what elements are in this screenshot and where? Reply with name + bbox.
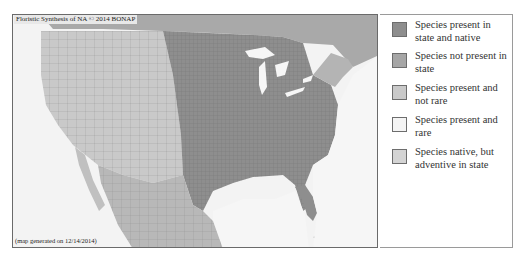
map-graphic bbox=[13, 15, 378, 248]
legend-item-not-present: Species not present in state bbox=[389, 49, 511, 85]
legend-swatch bbox=[392, 53, 407, 68]
legend-item-rare: Species present and rare bbox=[389, 113, 511, 149]
map-title: Floristic Synthesis of NA © 2014 BONAP bbox=[14, 15, 137, 24]
legend-swatch bbox=[392, 85, 407, 100]
legend-label: Species present and not rare bbox=[415, 81, 511, 107]
legend-swatch bbox=[392, 22, 407, 37]
legend-item-adventive: Species native, but adventive in state bbox=[389, 145, 511, 181]
legend-swatch bbox=[392, 117, 407, 132]
legend-item-not-rare: Species present and not rare bbox=[389, 81, 511, 117]
legend-label: Species present and rare bbox=[415, 113, 511, 139]
legend-swatch bbox=[392, 149, 407, 164]
map-generated-date: (map generated on 12/14/2014) bbox=[15, 237, 97, 245]
map-legend: Species present in state and native Spec… bbox=[380, 14, 513, 248]
legend-label: Species not present in state bbox=[415, 49, 511, 75]
legend-label: Species native, but adventive in state bbox=[415, 145, 511, 171]
distribution-map: Floristic Synthesis of NA © 2014 BONAP (… bbox=[12, 14, 378, 248]
legend-label: Species present in state and native bbox=[415, 18, 511, 44]
